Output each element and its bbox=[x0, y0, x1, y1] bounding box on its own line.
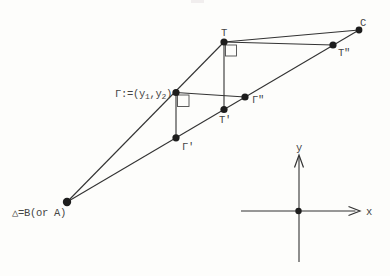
point-gamma bbox=[172, 89, 179, 96]
edge-t-to-c bbox=[224, 30, 359, 42]
label-x-axis: x bbox=[366, 206, 372, 218]
label-t-prime: T' bbox=[219, 114, 231, 126]
edge-t-to-t-double-prime bbox=[224, 42, 333, 45]
point-gamma-prime bbox=[172, 134, 179, 141]
point-delta bbox=[63, 198, 71, 206]
right-angle-at-gamma-icon bbox=[178, 95, 190, 107]
right-angle-at-t-icon bbox=[226, 45, 237, 56]
point-t bbox=[220, 38, 227, 45]
label-t: T bbox=[221, 27, 227, 39]
point-axes-origin bbox=[295, 208, 301, 214]
label-gamma-prime: Γ' bbox=[182, 141, 194, 153]
construction-diagram: △=B(or A)Γ:=(y1,y2)Γ'TT'Γ"T"Cxy bbox=[0, 0, 390, 276]
point-t-double-prime bbox=[329, 41, 336, 48]
label-y-axis: y bbox=[296, 142, 302, 154]
label-t-double-prime: T" bbox=[338, 47, 350, 59]
label-c: C bbox=[360, 17, 366, 29]
edge-delta-to-t bbox=[67, 42, 224, 202]
label-gamma: Γ:=(y1,y2) bbox=[115, 88, 172, 102]
label-gamma-double-prime: Γ" bbox=[252, 94, 264, 106]
point-t-prime bbox=[220, 106, 227, 113]
label-delta: △=B(or A) bbox=[12, 207, 66, 219]
diagram-svg: △=B(or A)Γ:=(y1,y2)Γ'TT'Γ"T"Cxy bbox=[0, 0, 390, 276]
scan-artifact bbox=[191, 0, 204, 3]
point-gamma-double-prime bbox=[241, 93, 248, 100]
edge-delta-to-c bbox=[67, 30, 359, 202]
